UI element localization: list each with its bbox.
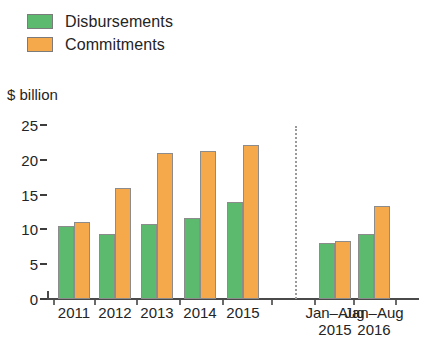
bar-chart: Disbursements Commitments $ billion 0510… <box>0 0 423 347</box>
bar-disbursements-2013 <box>141 224 157 299</box>
bar-commitments-2013 <box>157 153 173 299</box>
x-tick-mark <box>271 300 273 305</box>
x-axis-label-Jan-Aug-2016: Jan–Aug2016 <box>344 304 403 338</box>
period-divider <box>295 126 297 299</box>
y-tick-label: 5 <box>30 256 38 273</box>
y-tick-mark <box>40 263 47 265</box>
x-axis-label-line1: 2012 <box>98 304 131 321</box>
legend-item-commitments: Commitments <box>27 33 173 56</box>
bar-commitments-2011 <box>74 222 90 299</box>
legend-label-disbursements: Disbursements <box>65 13 173 31</box>
legend-swatch-commitments <box>27 37 53 52</box>
x-tick-mark <box>136 300 138 305</box>
plot-area: 0510152025 20112012201320142015Jan–Aug20… <box>47 120 419 300</box>
y-tick-mark <box>40 228 47 230</box>
bar-commitments-2012 <box>115 188 131 299</box>
x-tick-mark <box>94 300 96 305</box>
x-axis-label-line2: 2016 <box>344 321 403 338</box>
x-axis-label-line1: 2014 <box>183 304 216 321</box>
y-axis-title: $ billion <box>7 86 58 103</box>
y-tick-label: 10 <box>21 221 38 238</box>
y-tick-mark <box>40 124 47 126</box>
bar-disbursements-2012 <box>99 234 115 299</box>
bar-commitments-Jan-Aug-2015 <box>335 241 351 299</box>
bar-commitments-Jan-Aug-2016 <box>374 206 390 299</box>
y-tick-mark <box>40 298 47 300</box>
y-tick-mark <box>40 194 47 196</box>
x-axis-label-2012: 2012 <box>98 304 131 321</box>
x-axis-label-line1: 2013 <box>140 304 173 321</box>
bar-disbursements-2011 <box>58 226 74 299</box>
x-axis-label-line1: 2011 <box>58 304 90 321</box>
bar-disbursements-2015 <box>227 202 243 299</box>
y-tick-label: 25 <box>21 117 38 134</box>
legend-swatch-disbursements <box>27 14 53 29</box>
x-tick-mark <box>222 300 224 305</box>
x-axis-label-2015: 2015 <box>226 304 259 321</box>
bar-commitments-2014 <box>200 151 216 299</box>
bar-disbursements-2014 <box>184 218 200 299</box>
y-tick-label: 0 <box>30 291 38 308</box>
x-tick-mark <box>179 300 181 305</box>
x-axis-label-2013: 2013 <box>140 304 173 321</box>
x-tick-mark <box>53 300 55 305</box>
bar-disbursements-Jan-Aug-2015 <box>319 243 335 299</box>
x-axis-label-2014: 2014 <box>183 304 216 321</box>
y-tick-mark <box>40 159 47 161</box>
y-tick-label: 15 <box>21 186 38 203</box>
bar-disbursements-Jan-Aug-2016 <box>358 234 374 299</box>
x-axis-label-line1: Jan–Aug <box>344 304 403 321</box>
y-axis-line <box>47 291 49 300</box>
legend-item-disbursements: Disbursements <box>27 10 173 33</box>
bar-commitments-2015 <box>243 145 259 299</box>
x-axis-label-2011: 2011 <box>58 304 90 321</box>
chart-legend: Disbursements Commitments <box>27 10 173 56</box>
y-tick-label: 20 <box>21 151 38 168</box>
legend-label-commitments: Commitments <box>65 36 165 54</box>
x-axis-label-line1: 2015 <box>226 304 259 321</box>
